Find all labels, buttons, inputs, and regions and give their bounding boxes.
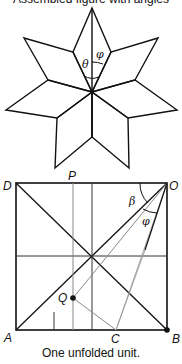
label-q: Q (58, 291, 67, 305)
label-o: O (169, 179, 178, 193)
label-p: P (68, 169, 76, 183)
star-figure (6, 8, 177, 168)
point-q (70, 295, 76, 301)
figure-caption: One unfolded unit. (0, 346, 182, 360)
label-d: D (3, 179, 12, 193)
label-c: C (111, 332, 120, 346)
label-a: A (3, 331, 12, 345)
petal-lower-left (6, 80, 92, 118)
petal-upper-right (92, 38, 158, 92)
petal-bottom-right (92, 92, 129, 168)
beta-label: β (128, 195, 135, 208)
phi-label-star: φ (96, 48, 104, 61)
diagram-canvas: θ φ D P O A C B Q β φ (0, 0, 182, 364)
label-b: B (172, 332, 180, 346)
phi-label-unit: φ (142, 215, 150, 228)
petal-bottom-left (55, 92, 92, 168)
theta-label: θ (82, 58, 89, 71)
point-b (164, 327, 170, 333)
petal-lower-right (92, 80, 177, 118)
unit-square (16, 183, 170, 333)
